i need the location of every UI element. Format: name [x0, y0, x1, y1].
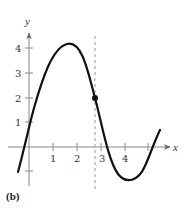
function-graph: x y 1 2 3 4 1 2 3 4: [0, 0, 182, 210]
x-tick-label-1: 1: [50, 153, 56, 164]
y-tick-label-1: 1: [15, 117, 21, 128]
x-tick-label-4: 4: [122, 153, 128, 164]
y-tick-label-2: 2: [15, 93, 21, 104]
x-tick-label-2: 2: [74, 153, 80, 164]
x-tick-label-3: 3: [99, 153, 105, 164]
function-curve: [18, 44, 160, 180]
x-axis-label: x: [172, 141, 178, 153]
highlighted-point: [92, 95, 98, 101]
panel-label: (b): [6, 190, 19, 202]
y-tick-label-4: 4: [15, 43, 21, 54]
y-axis-label: y: [24, 15, 30, 27]
y-tick-label-3: 3: [15, 68, 21, 79]
